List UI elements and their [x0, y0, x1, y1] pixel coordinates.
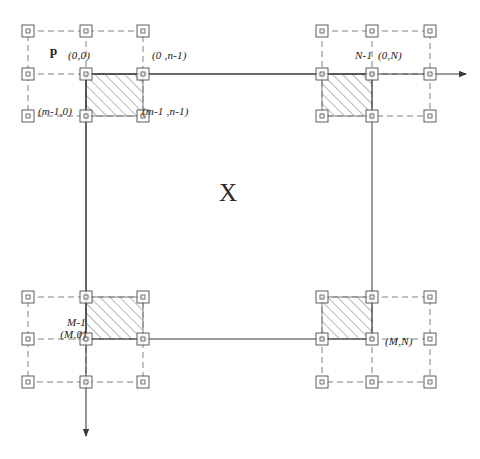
marker-outer-square — [366, 376, 378, 388]
sample-point-marker — [22, 291, 34, 303]
label-m-0-line2: (M,0) — [28, 329, 86, 341]
sample-point-marker — [366, 110, 378, 122]
sample-point-marker — [316, 68, 328, 80]
diagram-root: X p(0,0)(0 ,n-1)N-1 (0,N)(m-1,0)(m-1 ,n-… — [0, 0, 480, 459]
sample-point-marker — [366, 333, 378, 345]
sample-point-marker — [424, 68, 436, 80]
marker-outer-square — [22, 376, 34, 388]
sample-point-marker — [424, 110, 436, 122]
marker-outer-square — [424, 25, 436, 37]
sample-point-marker — [316, 376, 328, 388]
sample-point-marker — [137, 25, 149, 37]
marker-outer-square — [80, 68, 92, 80]
marker-outer-square — [80, 291, 92, 303]
corner-group-top-left-hatch-block — [86, 74, 143, 116]
hatch-blocks-layer — [86, 74, 372, 339]
marker-outer-square — [80, 25, 92, 37]
marker-outer-square — [366, 291, 378, 303]
marker-outer-square — [22, 25, 34, 37]
sample-point-marker — [80, 25, 92, 37]
marker-outer-square — [424, 291, 436, 303]
label-n-1-0-n: N-1 (0,N) — [355, 50, 402, 62]
sample-point-marker — [137, 376, 149, 388]
sample-point-marker — [424, 25, 436, 37]
marker-outer-square — [80, 110, 92, 122]
label-m-1-line1: M-1 — [28, 317, 86, 329]
label-0-0: (0,0) — [68, 50, 90, 62]
marker-outer-square — [22, 68, 34, 80]
marker-outer-square — [316, 376, 328, 388]
sample-point-marker — [22, 376, 34, 388]
sample-point-marker — [316, 110, 328, 122]
corner-group-bottom-left-hatch-block — [86, 297, 143, 339]
marker-outer-square — [316, 25, 328, 37]
corner-group-top-right-hatch-block — [322, 74, 372, 116]
sample-point-marker — [22, 110, 34, 122]
sample-point-marker — [424, 333, 436, 345]
marker-outer-square — [22, 110, 34, 122]
sample-point-marker — [424, 376, 436, 388]
marker-outer-square — [316, 68, 328, 80]
label-m-1-m-0: M-1(M,0) — [28, 317, 86, 340]
marker-outer-square — [424, 376, 436, 388]
sample-point-marker — [137, 68, 149, 80]
label-m-n: (M,N) — [385, 336, 413, 348]
sample-point-marker — [316, 333, 328, 345]
marker-outer-square — [137, 25, 149, 37]
sample-point-marker — [22, 25, 34, 37]
center-label-x: X — [219, 180, 237, 206]
marker-outer-square — [366, 333, 378, 345]
sample-point-marker — [137, 291, 149, 303]
marker-outer-square — [316, 291, 328, 303]
sample-point-marker — [366, 376, 378, 388]
label-m-1-0: (m-1,0) — [38, 106, 72, 118]
sample-point-marker — [80, 376, 92, 388]
sample-point-marker — [22, 68, 34, 80]
marker-outer-square — [366, 110, 378, 122]
marker-outer-square — [137, 291, 149, 303]
marker-outer-square — [424, 333, 436, 345]
marker-outer-square — [424, 68, 436, 80]
marker-outer-square — [366, 68, 378, 80]
marker-outer-square — [137, 68, 149, 80]
marker-outer-square — [366, 25, 378, 37]
sample-point-marker — [424, 291, 436, 303]
corner-group-bottom-right-hatch-block — [322, 297, 372, 339]
marker-outer-square — [80, 376, 92, 388]
sample-point-marker — [316, 291, 328, 303]
sample-point-marker — [366, 25, 378, 37]
marker-outer-square — [137, 376, 149, 388]
sample-point-marker — [316, 25, 328, 37]
diagram-canvas — [0, 0, 480, 459]
marker-outer-square — [137, 333, 149, 345]
sample-point-marker — [366, 68, 378, 80]
marker-outer-square — [22, 291, 34, 303]
sample-point-marker — [366, 291, 378, 303]
label-0-n-1: (0 ,n-1) — [152, 50, 187, 62]
marker-outer-square — [316, 333, 328, 345]
sample-point-marker — [80, 110, 92, 122]
marker-outer-square — [316, 110, 328, 122]
marker-outer-square — [424, 110, 436, 122]
sample-point-marker — [137, 333, 149, 345]
plane-label-p: p — [50, 44, 57, 58]
sample-point-marker — [80, 68, 92, 80]
label-m-1-n-1: (m-1 ,n-1) — [142, 106, 189, 118]
sample-point-marker — [80, 291, 92, 303]
